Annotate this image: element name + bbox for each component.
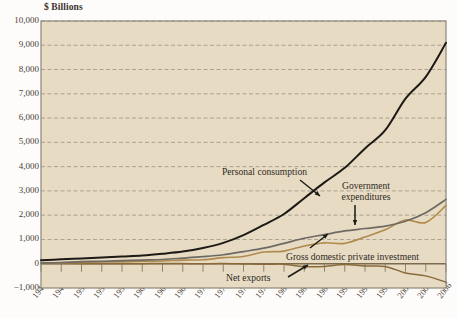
annotation-government-expenditures: Government expenditures	[327, 181, 405, 202]
annotation-net-exports: Net exports	[226, 273, 271, 284]
annotation-government-line1: Government	[342, 180, 390, 191]
chart-plot-area	[0, 0, 457, 318]
annotation-gross-domestic-private-investment: Gross domestic private investment	[286, 252, 419, 263]
chart-figure: $ Billions 10,0009,0008,0007,0006,0005,0…	[0, 0, 457, 318]
annotation-government-line2: expenditures	[341, 191, 390, 202]
annotation-personal-consumption: Personal consumption	[222, 167, 307, 178]
